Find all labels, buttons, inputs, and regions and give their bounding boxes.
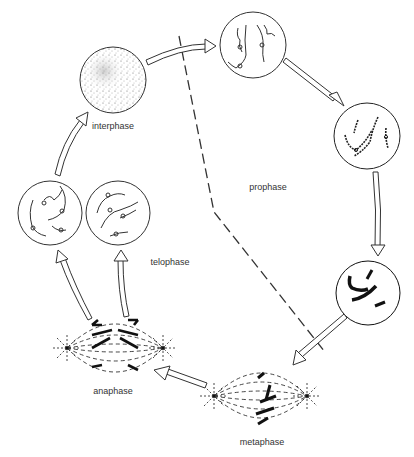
arrow-metaphase-to-anaphase xyxy=(154,366,207,388)
phase-divider-line xyxy=(179,36,325,352)
telophase-cell-left xyxy=(18,181,82,245)
arrow-prophase-early-to-mid xyxy=(283,58,344,106)
interphase-label: interphase xyxy=(92,121,134,131)
arrow-telophase-to-interphase xyxy=(55,112,88,176)
anaphase-label: anaphase xyxy=(93,386,133,396)
arrow-prophase-mid-to-late xyxy=(371,172,385,256)
arrow-anaphase-to-telophase-right xyxy=(114,250,129,317)
prophase-mid-cell xyxy=(334,103,400,169)
arrow-anaphase-to-telophase-left xyxy=(56,250,92,320)
anaphase-spindle xyxy=(53,320,177,372)
telophase-label: telophase xyxy=(150,257,189,267)
telophase-cell-right xyxy=(86,181,150,245)
prophase-early-cell xyxy=(220,12,286,78)
cell-cycle-diagram xyxy=(0,0,414,457)
interphase-cell xyxy=(80,47,146,113)
metaphase-spindle xyxy=(200,373,321,424)
metaphase-label: metaphase xyxy=(240,437,285,447)
prophase-label: prophase xyxy=(249,182,287,192)
